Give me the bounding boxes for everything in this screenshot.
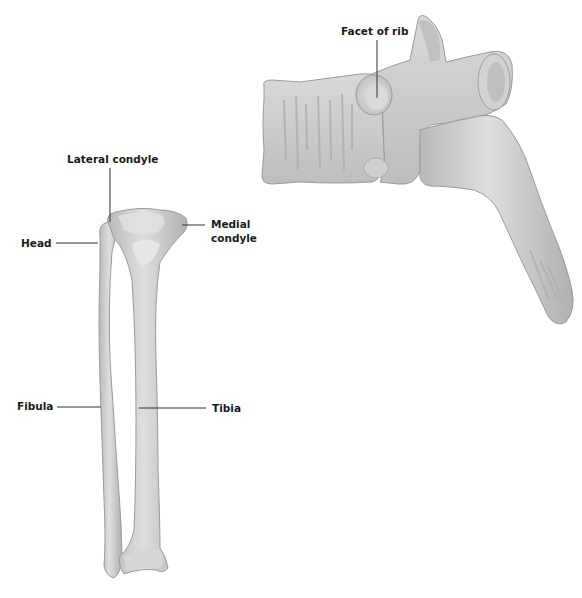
vertebra (262, 15, 573, 324)
fibula-bone (99, 222, 122, 578)
label-head: Head (21, 237, 52, 250)
label-facet-of-rib: Facet of rib (341, 25, 408, 38)
label-medial-condyle-line1: Medial (211, 218, 250, 231)
bone-illustration (0, 0, 582, 598)
label-medial-condyle-line2: condyle (211, 232, 257, 245)
label-lateral-condyle: Lateral condyle (67, 153, 158, 166)
label-fibula: Fibula (17, 400, 53, 413)
label-tibia: Tibia (212, 402, 241, 415)
diagram-canvas: Lateral condyle Medial condyle Head Fibu… (0, 0, 582, 598)
